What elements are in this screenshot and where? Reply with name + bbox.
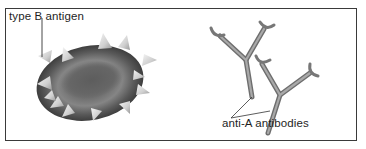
diagram-artwork — [0, 0, 366, 149]
antigen-spike — [98, 33, 112, 49]
red-blood-cell — [29, 33, 157, 130]
binding-site-icon — [211, 28, 224, 36]
binding-site-icon — [260, 22, 274, 27]
antibody-1 — [211, 22, 274, 97]
binding-site-icon — [310, 64, 318, 76]
antibody-leader-lines — [231, 97, 270, 118]
antigen-spike — [38, 50, 52, 63]
antibody-label: anti-A antibodies — [222, 117, 309, 129]
antigen-spike — [118, 35, 130, 50]
binding-site-icon — [256, 56, 270, 62]
antigen-spike — [142, 54, 157, 66]
antigen-label: type B antigen — [9, 10, 84, 22]
antigen-spike — [136, 84, 150, 95]
